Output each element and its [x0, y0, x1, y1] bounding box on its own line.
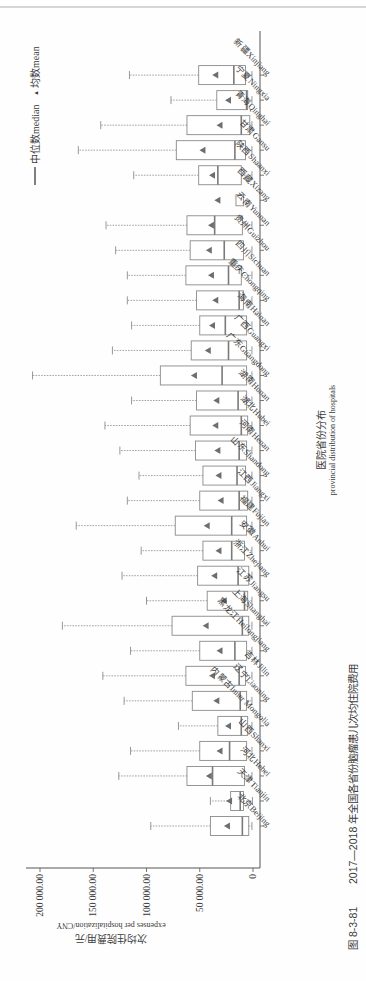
box-group	[127, 491, 252, 510]
box-group	[134, 166, 252, 185]
box-group	[151, 817, 252, 836]
box-group	[139, 466, 252, 485]
legend: 中位数median ▲ 均数mean	[29, 46, 41, 185]
box-group	[78, 141, 252, 160]
box-series	[33, 66, 253, 836]
box-group	[76, 516, 252, 535]
category-axis-title: 医院省份分布 provincial distribution of hospit…	[315, 385, 337, 495]
box-group	[101, 116, 252, 135]
box-plot-chart: 050 000.00100 000.00150 000.00200 000.00…	[0, 0, 366, 981]
value-axis-title-en: expenses per hospitalization/CNY	[56, 921, 166, 930]
value-tick-label: 50 000.00	[195, 874, 205, 912]
category-axis-title-en: provincial distribution of hospitals	[328, 385, 337, 495]
box-group	[62, 616, 252, 635]
value-tick-label: 150 000.00	[88, 874, 98, 917]
box-group	[129, 66, 251, 85]
mean-marker-icon	[226, 797, 232, 804]
box-group	[105, 416, 252, 435]
box-group	[131, 641, 252, 660]
category-axis-title-cn: 医院省份分布	[315, 410, 327, 470]
iqr-box	[199, 166, 242, 185]
box-group	[119, 766, 252, 785]
value-tick-label: 0	[248, 874, 258, 879]
figure-number: 图 8-3-81	[347, 907, 359, 950]
box-group	[112, 341, 252, 360]
iqr-box	[200, 641, 247, 660]
legend-median-label: 中位数median	[29, 105, 41, 164]
iqr-box	[160, 366, 246, 385]
value-axis-ticks: 050 000.00100 000.00150 000.00200 000.00	[35, 868, 258, 917]
box-group	[33, 366, 252, 385]
box-group	[132, 391, 252, 410]
value-tick-label: 200 000.00	[35, 874, 45, 917]
mean-marker-icon	[214, 197, 220, 204]
value-tick-label: 100 000.00	[142, 874, 152, 917]
chart-page: 050 000.00100 000.00150 000.00200 000.00…	[0, 0, 366, 981]
iqr-box	[187, 766, 245, 785]
box-group	[106, 216, 252, 235]
value-axis-title: 次均住院费用/元 expenses per hospitalization/CN…	[56, 921, 166, 945]
iqr-box	[197, 291, 244, 310]
box-group	[131, 741, 252, 760]
legend-mean-marker-icon: ▲	[33, 90, 39, 96]
legend-mean-label: 均数mean	[29, 46, 41, 88]
figure-title: 2017—2018 年全国各省份脑瘤患儿次均住院费用	[347, 664, 359, 884]
iqr-box	[175, 516, 246, 535]
box-group	[122, 566, 252, 585]
figure-caption: 图 8-3-81 2017—2018 年全国各省份脑瘤患儿次均住院费用	[347, 664, 359, 950]
box-group	[127, 291, 252, 310]
value-axis-title-cn: 次均住院费用/元	[75, 933, 148, 945]
